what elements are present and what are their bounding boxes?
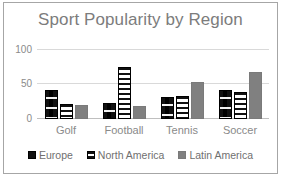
chart-frame: Sport Popularity by Region 100 50 0 <box>3 2 278 174</box>
plot-area: 100 50 0 <box>37 49 269 119</box>
bar-golf-north-america[interactable] <box>60 104 73 119</box>
legend-label-europe: Europe <box>39 149 73 161</box>
legend-label-latin-america: Latin America <box>189 149 253 161</box>
x-axis-tick-tennis: Tennis <box>153 124 211 136</box>
y-axis-tick-100: 100 <box>15 44 32 55</box>
legend-item-europe[interactable]: Europe <box>28 149 73 161</box>
bar-golf-europe[interactable] <box>45 90 58 119</box>
bar-group-soccer <box>211 49 269 119</box>
bar-soccer-europe[interactable] <box>219 90 232 119</box>
legend-item-latin-america[interactable]: Latin America <box>178 149 253 161</box>
x-axis-tick-football: Football <box>95 124 153 136</box>
legend-swatch-north-america-icon <box>87 151 95 159</box>
y-axis-tick-0: 0 <box>26 113 32 124</box>
x-axis-labels: Golf Football Tennis Soccer <box>37 124 269 136</box>
bar-golf-latin-america[interactable] <box>75 105 88 119</box>
bar-group-football <box>95 49 153 119</box>
x-axis-tick-golf: Golf <box>37 124 95 136</box>
bar-soccer-latin-america[interactable] <box>249 72 262 119</box>
chart-legend: Europe North America Latin America <box>4 149 277 161</box>
x-axis-tick-soccer: Soccer <box>211 124 269 136</box>
legend-item-north-america[interactable]: North America <box>87 149 165 161</box>
bar-tennis-europe[interactable] <box>161 97 174 119</box>
bar-tennis-north-america[interactable] <box>176 96 189 119</box>
legend-swatch-latin-america-icon <box>178 151 186 159</box>
bar-tennis-latin-america[interactable] <box>191 82 204 119</box>
bar-group-golf <box>37 49 95 119</box>
bar-football-north-america[interactable] <box>118 67 131 119</box>
bar-groups <box>37 49 269 119</box>
legend-label-north-america: North America <box>98 149 165 161</box>
bar-football-latin-america[interactable] <box>133 106 146 119</box>
bar-soccer-north-america[interactable] <box>234 92 247 119</box>
bar-group-tennis <box>153 49 211 119</box>
y-axis-tick-50: 50 <box>21 78 32 89</box>
chart-title: Sport Popularity by Region <box>4 10 277 30</box>
bar-football-europe[interactable] <box>103 103 116 119</box>
legend-swatch-europe-icon <box>28 151 36 159</box>
